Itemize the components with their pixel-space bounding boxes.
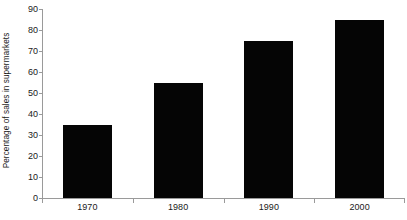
y-tick-mark [39,72,42,73]
y-tick-mark [39,135,42,136]
y-tick-mark [39,30,42,31]
y-tick-mark [39,114,42,115]
y-tick-label: 30 [14,131,38,140]
y-tick-mark [39,156,42,157]
bar [154,83,203,199]
y-tick-label: 70 [14,47,38,56]
y-tick-mark [39,177,42,178]
y-axis-tick-labels: 0102030405060708090 [12,0,38,220]
y-tick-mark [39,93,42,94]
y-tick-label: 20 [14,152,38,161]
bar-chart: Percentage of sales in supermarkets 0102… [0,0,407,220]
y-tick-label: 40 [14,110,38,119]
y-tick-mark [39,9,42,10]
y-tick-label: 90 [14,5,38,14]
y-tick-label: 60 [14,68,38,77]
x-tick-label: 1990 [259,203,279,212]
x-tick-label: 1980 [168,203,188,212]
y-tick-label: 10 [14,173,38,182]
y-tick-mark [39,51,42,52]
x-tick-label: 2000 [350,203,370,212]
plot-area [42,9,405,198]
x-tick-label: 1970 [77,203,97,212]
y-tick-label: 80 [14,26,38,35]
x-axis-tick-labels: 1970198019902000 [42,203,405,220]
y-tick-label: 50 [14,89,38,98]
bar [335,20,384,199]
bar [63,125,112,199]
y-axis-title-text: Percentage of sales in supermarkets [3,32,12,168]
bar [244,41,293,199]
y-tick-label: 0 [14,194,38,203]
y-axis-line [42,9,43,198]
